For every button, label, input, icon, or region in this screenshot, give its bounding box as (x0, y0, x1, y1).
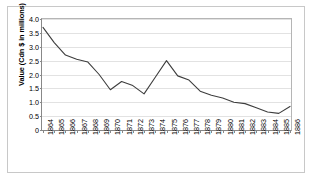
x-axis-tick-mark (144, 130, 145, 133)
x-axis-tick-mark (189, 130, 190, 133)
y-axis-tick-label: 1.0 (29, 98, 39, 107)
x-axis-tick-label: 1886 (293, 119, 302, 135)
x-axis-tick-mark (167, 130, 168, 133)
y-axis-tick-label: 2.5 (29, 56, 39, 65)
x-axis-tick-mark (245, 130, 246, 133)
x-axis-tick-mark (223, 130, 224, 133)
y-axis-tick-label: 0 (35, 126, 39, 135)
x-axis-tick-mark (155, 130, 156, 133)
x-axis-tick-mark (43, 130, 44, 133)
x-axis-tick-mark (77, 130, 78, 133)
y-axis-tick-label: 1.5 (29, 84, 39, 93)
x-axis-tick-mark (279, 130, 280, 133)
y-axis-tick-label: 3.5 (29, 28, 39, 37)
x-axis-tick-mark (133, 130, 134, 133)
x-axis-tick-mark (99, 130, 100, 133)
y-axis-tick-label: 3.0 (29, 42, 39, 51)
y-axis-tick-label: 2.0 (29, 70, 39, 79)
y-axis-tick-label: 4.0 (29, 15, 39, 24)
y-axis-tick-label: 0.5 (29, 112, 39, 121)
y-axis-tick-mark (40, 130, 42, 131)
x-axis-tick-mark (65, 130, 66, 133)
x-axis-tick-mark (110, 130, 111, 133)
x-axis-tick-mark (234, 130, 235, 133)
x-axis-tick-mark (256, 130, 257, 133)
line-chart: Value (Cdn $ in millions) 00.51.01.52.02… (0, 0, 316, 180)
x-axis-tick-mark (211, 130, 212, 133)
x-axis-tick-mark (290, 130, 291, 133)
plot-area: 00.51.01.52.02.53.03.54.0 18641865186618… (41, 18, 292, 131)
x-axis-tick-mark (200, 130, 201, 133)
x-axis-tick-mark (54, 130, 55, 133)
series-polyline (43, 27, 290, 113)
data-series-line (42, 19, 291, 130)
x-axis-tick-mark (88, 130, 89, 133)
x-axis-tick-mark (122, 130, 123, 133)
x-axis-tick-mark (268, 130, 269, 133)
y-axis-title: Value (Cdn $ in millions) (17, 0, 26, 100)
x-axis-tick-mark (178, 130, 179, 133)
